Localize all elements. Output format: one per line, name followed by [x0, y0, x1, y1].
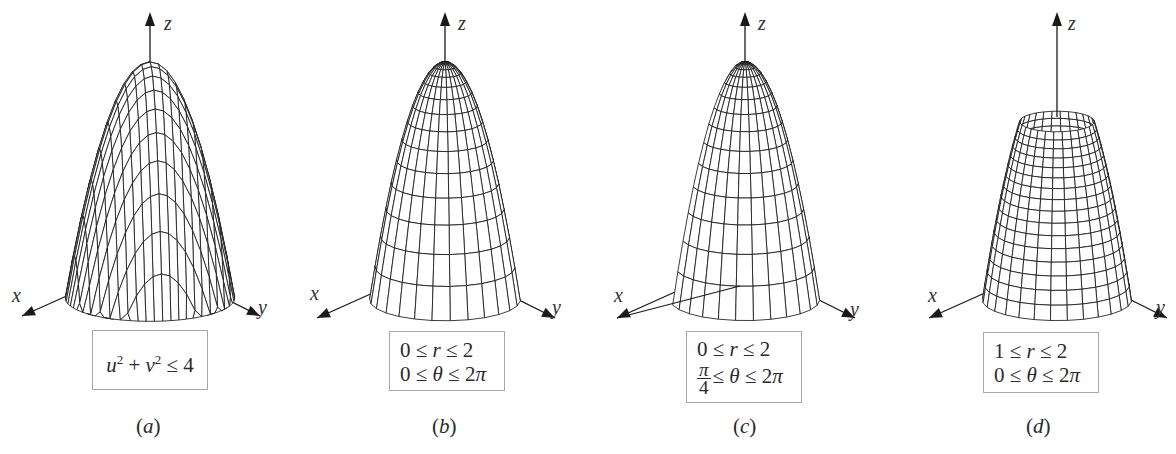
z-axis-label: z — [164, 12, 172, 35]
domain-theta-range: 0 ≤ θ ≤ 2π — [400, 362, 504, 386]
panel-a: z x y u2 + v2 ≤ 4 (a) — [0, 0, 300, 454]
domain-condition: u2 + v2 ≤ 4 — [93, 348, 207, 377]
x-axis-label: x — [614, 284, 623, 307]
z-axis-label: z — [458, 12, 466, 35]
panel-b: z x y 0 ≤ r ≤ 2 0 ≤ θ ≤ 2π (b) — [290, 0, 590, 454]
panel-label-a: (a) — [136, 414, 161, 439]
y-axis-label: y — [1156, 296, 1165, 319]
panel-label-d: (d) — [1026, 414, 1051, 439]
panel-label-b: (b) — [432, 414, 457, 439]
domain-r-range: 0 ≤ r ≤ 2 — [697, 337, 801, 361]
domain-theta-range: π4≤ θ ≤ 2π — [697, 361, 801, 396]
domain-box-b: 0 ≤ r ≤ 2 0 ≤ θ ≤ 2π — [389, 331, 505, 391]
y-axis-label: y — [850, 298, 859, 321]
domain-box-d: 1 ≤ r ≤ 2 0 ≤ θ ≤ 2π — [983, 332, 1099, 393]
y-axis-label: y — [552, 296, 561, 319]
z-axis-label: z — [1068, 12, 1076, 35]
panel-label-c: (c) — [733, 414, 756, 439]
x-axis-label: x — [12, 284, 21, 307]
x-axis-label: x — [310, 282, 319, 305]
domain-box-a: u2 + v2 ≤ 4 — [92, 330, 208, 390]
panel-c: z x y 0 ≤ r ≤ 2 π4≤ θ ≤ 2π (c) — [580, 0, 880, 454]
domain-r-range: 1 ≤ r ≤ 2 — [994, 339, 1098, 363]
y-axis-label: y — [258, 296, 267, 319]
pi-over-4-fraction: π4 — [697, 361, 711, 396]
domain-theta-range: 0 ≤ θ ≤ 2π — [994, 363, 1098, 387]
panel-d: z x y 1 ≤ r ≤ 2 0 ≤ θ ≤ 2π (d) — [876, 0, 1176, 454]
z-axis-label: z — [758, 12, 766, 35]
domain-box-c: 0 ≤ r ≤ 2 π4≤ θ ≤ 2π — [686, 331, 802, 403]
x-axis-label: x — [928, 284, 937, 307]
domain-r-range: 0 ≤ r ≤ 2 — [400, 338, 504, 362]
